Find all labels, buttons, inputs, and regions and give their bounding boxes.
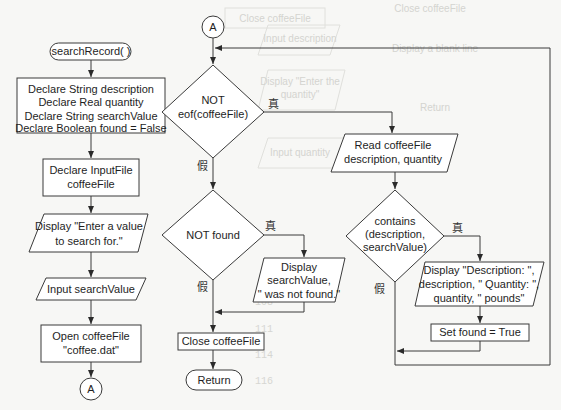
start-terminal: searchRecord( ) [50,43,131,60]
true-label: 真 [268,97,279,111]
declare-file-line: coffeeFile [67,178,115,190]
true-label: 真 [265,219,276,233]
display-record-line: description, " Quantity: ", [419,278,539,290]
declare-file-process: Declare InputFile coffeeFile [43,159,139,196]
input-search-label: Input searchValue [47,283,135,295]
display-not-found-line: searchValue, [267,274,330,286]
set-found-label: Set found = True [439,326,521,338]
read-record-line: description, quantity [344,153,442,165]
display-record-line: quantity, " pounds" [434,292,525,304]
ghost-text: Return [420,102,450,113]
read-record-line: Read coffeeFile [355,139,432,151]
decision-label: NOT found [186,229,240,241]
connector-a-bottom: A [80,378,102,400]
ghost-code: 114 [255,350,273,361]
declare-line: Declare Boolean found = False [15,122,166,134]
false-label: 假 [197,159,208,173]
close-file-label: Close coffeeFile [182,335,261,347]
ghost-code: 116 [255,376,273,387]
flowchart-canvas: Close coffeeFile Input description Displ… [0,0,561,410]
not-found-decision: NOT found [162,190,264,280]
close-file-process: Close coffeeFile [178,333,264,350]
loop-condition-decision: NOT eof(coffeeFile) [162,65,264,158]
ghost-text: Display "Enter the [260,76,340,87]
start-label: searchRecord( ) [52,45,131,57]
false-label: 假 [374,282,385,296]
declare-variables-process: Declare String description Declare Real … [15,78,166,134]
decision-line: NOT [201,94,225,106]
end-terminal: Return [186,370,242,390]
true-label: 真 [452,221,463,235]
display-not-found-line: " was not found." [258,288,341,300]
declare-line: Declare String searchValue [24,110,157,122]
display-prompt-io: Display "Enter a value to search for." [29,214,148,252]
ghost-text: Input description [263,33,336,44]
ghost-text: Close coffeeFile [394,3,466,14]
input-search-io: Input searchValue [36,278,146,300]
false-label: 假 [197,280,208,294]
connector-label: A [87,383,95,395]
ghost-text: quantity" [281,89,320,100]
connector-label: A [209,21,217,33]
end-label: Return [197,374,230,386]
open-file-line: Open coffeeFile [52,330,129,342]
display-not-found-line: Display [281,261,318,273]
display-record-line: Display "Description: ", [423,264,534,276]
decision-line: eof(coffeeFile) [178,108,248,120]
declare-file-line: Declare InputFile [49,164,132,176]
open-file-line: "coffee.dat" [63,344,119,356]
display-prompt-line: Display "Enter a value [35,220,143,232]
display-record-io: Display "Description: ", description, " … [415,262,544,306]
ghost-text: Close coffeeFile [239,13,311,24]
set-found-process: Set found = True [431,324,529,341]
display-prompt-line: to search for." [55,235,123,247]
decision-line: contains [375,215,416,227]
declare-line: Declare Real quantity [38,96,144,108]
decision-line: (description, [365,228,425,240]
read-record-io: Read coffeeFile description, quantity [331,134,458,172]
declare-line: Declare String description [28,83,154,95]
connector-a-top: A [202,16,224,38]
display-not-found-io: Display searchValue, " was not found." [253,258,345,302]
decision-line: searchValue) [363,241,427,253]
ghost-text: Input quantity [270,147,330,158]
open-file-process: Open coffeeFile "coffee.dat" [41,325,141,362]
